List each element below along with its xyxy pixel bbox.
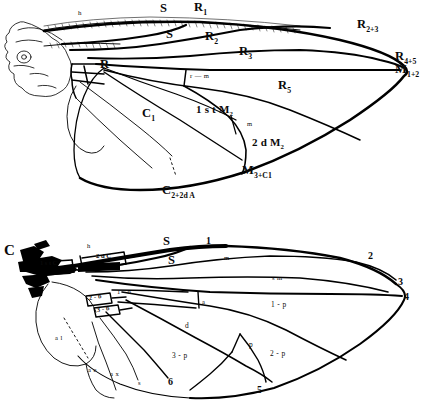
- label-S-lower-upper-wing: S: [166, 28, 173, 41]
- label-R2: R2: [205, 30, 218, 45]
- label-M3-plus-C1: M3+C1: [242, 164, 272, 179]
- lower-wing-base-sclerites: [18, 240, 120, 298]
- label-cell-3: 3: [398, 277, 403, 287]
- crossvein-r-m: [184, 70, 186, 86]
- label-cell-5: 5: [257, 385, 262, 395]
- label-s-small: s: [138, 380, 141, 387]
- label-1st-C: 1 s t C: [40, 260, 57, 266]
- label-cell-4: 4: [404, 292, 409, 302]
- lower-crossvein-a: [198, 292, 199, 308]
- vein-M3: [184, 86, 246, 174]
- label-cell-3p: 3 - p: [172, 352, 188, 359]
- label-R2plus3: R2+3: [357, 18, 378, 33]
- label-cell-6: 6: [168, 377, 173, 387]
- lower-cell-1b-lower: [118, 302, 196, 308]
- lower-vein-ax: [92, 322, 116, 390]
- label-cell-p: p: [249, 341, 253, 348]
- label-h-lower: h: [87, 243, 91, 250]
- label-R1: R1: [194, 1, 207, 16]
- label-cell-1: 1: [206, 236, 211, 246]
- lower-crossvein-p: [232, 334, 240, 352]
- wing-diagram-svg: [0, 0, 433, 400]
- lower-vein-media: [122, 292, 346, 360]
- wing-venation-figure: h S R1 S R2 R3 R2+3 R4+5 M1+2 R R5 r — m…: [0, 0, 433, 400]
- label-R3: R3: [239, 45, 252, 60]
- label-h-upper: h: [78, 10, 82, 17]
- label-M1plus2: M1+2: [395, 63, 419, 78]
- label-S-upper: S: [160, 2, 167, 15]
- label-C-lower: C: [4, 243, 15, 258]
- label-cell-m: m: [224, 255, 230, 262]
- label-cell-2p: 2 - p: [270, 350, 286, 357]
- lower-alula-dashed: [64, 318, 88, 358]
- upper-thorax-base: [5, 22, 72, 97]
- label-cell-2: 2: [368, 251, 373, 261]
- label-2d-C: 2 d C: [96, 253, 111, 260]
- label-R5: R5: [278, 79, 291, 94]
- label-C1: C1: [142, 107, 155, 122]
- lower-vein-3: [96, 280, 402, 296]
- lower-wing-hind-margin: [78, 356, 190, 398]
- label-S-upper-lower-wing: S: [163, 235, 170, 248]
- lower-vein-5: [190, 352, 232, 390]
- upper-hind-margin: [74, 68, 104, 178]
- label-cell-a: a: [202, 299, 205, 306]
- upper-anal-dashed: [170, 158, 176, 176]
- label-S-lower-lower-wing: S: [168, 254, 175, 267]
- label-cell-d: d: [185, 322, 189, 329]
- lower-wing-outline: [190, 284, 405, 398]
- label-2d-M2: 2 d M2: [252, 137, 284, 151]
- lower-wing-drawing: [18, 240, 405, 398]
- label-ax: a x: [110, 371, 119, 378]
- label-C2-plus-2dA: C2+2d A: [162, 184, 195, 199]
- label-ae: a e: [88, 367, 97, 374]
- label-R: R: [100, 58, 109, 71]
- label-cell-1p: 1 - p: [271, 301, 287, 308]
- lower-vein-6: [106, 312, 168, 378]
- label-crossvein-r-m: r — m: [190, 73, 209, 80]
- label-cell-1b: 1 - b: [117, 289, 131, 296]
- label-1st-M2: 1 s t M2: [196, 104, 233, 118]
- vein-R4plus5: [96, 64, 400, 70]
- label-cell-sm: s m: [272, 275, 283, 282]
- upper-anal-veins: [76, 82, 172, 168]
- label-alula: a l: [55, 335, 63, 342]
- label-crossvein-m: m: [247, 121, 253, 128]
